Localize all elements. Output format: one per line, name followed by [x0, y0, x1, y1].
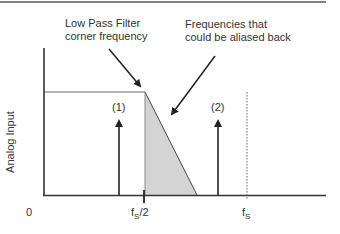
origin-label: 0 [26, 206, 32, 218]
aliased-label-line2: could be aliased back [185, 31, 291, 43]
aliasing-diagram: Low Pass Filter corner frequency Frequen… [0, 0, 340, 234]
signal-1-label: (1) [112, 101, 125, 113]
half-fs-label: fS/2 [131, 206, 149, 221]
aliased-label-line1: Frequencies that [185, 18, 267, 30]
aliased-pointer-arrow [172, 56, 215, 114]
y-axis-label: Analog Input [4, 111, 16, 173]
corner-pointer-arrow [109, 49, 140, 86]
signal-2-label: (2) [211, 101, 224, 113]
fs-label: fS [242, 206, 250, 221]
corner-label-line2: corner frequency [65, 30, 148, 42]
corner-label-line1: Low Pass Filter [65, 17, 141, 29]
